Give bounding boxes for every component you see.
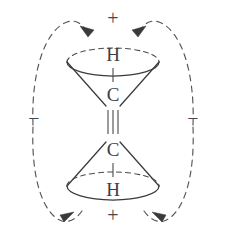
top-plus-sign: + xyxy=(101,8,125,28)
left-minus-sign: − xyxy=(22,108,46,128)
top-hydrogen-label: H xyxy=(100,45,126,64)
bottom-plus-sign: + xyxy=(101,205,125,225)
top-carbon-label: C xyxy=(100,85,126,104)
bottom-left-arrow xyxy=(33,127,82,222)
triple-bond xyxy=(108,110,118,134)
bottom-right-arrow xyxy=(144,127,193,222)
top-left-arrowhead xyxy=(80,26,94,37)
top-right-arrowhead xyxy=(132,26,146,37)
orbital-diagram-figure: + H C C H + − − xyxy=(0,0,226,252)
bottom-hydrogen-label: H xyxy=(100,180,126,199)
bottom-carbon-label: C xyxy=(100,140,126,159)
right-minus-sign: − xyxy=(181,108,205,128)
